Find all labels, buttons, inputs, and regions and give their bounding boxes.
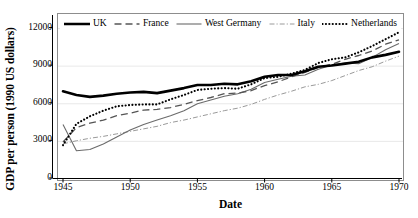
legend-item-uk[interactable]: UK [64, 19, 107, 29]
series-line-italy [63, 56, 399, 144]
x-tick-label: 1950 [110, 183, 150, 193]
series-lines [58, 14, 403, 180]
legend-swatch-netherlands-icon [322, 19, 348, 29]
y-tick-label: 6000 [18, 98, 52, 108]
legend-item-italy[interactable]: Italy [269, 19, 315, 29]
legend-item-france[interactable]: France [114, 19, 169, 29]
gdp-per-person-line-chart: GDP per person (1990 US dollars) 0300060… [0, 0, 418, 218]
legend-label: Italy [298, 19, 315, 29]
x-tick-label: 1960 [245, 183, 285, 193]
legend-label: France [143, 19, 169, 29]
x-tick-label: 1955 [177, 183, 217, 193]
legend-label: UK [93, 19, 107, 29]
legend-swatch-west-germany-icon [176, 19, 202, 29]
x-tick-label: 1945 [43, 183, 83, 193]
x-tick-label: 1965 [312, 183, 352, 193]
y-tick-label: 0 [18, 173, 52, 183]
series-line-netherlands [63, 32, 399, 145]
legend-item-netherlands[interactable]: Netherlands [322, 19, 397, 29]
legend-item-west-germany[interactable]: West Germany [176, 19, 261, 29]
legend-swatch-france-icon [114, 19, 140, 29]
x-axis-title: Date [57, 198, 404, 210]
chart-legend: UKFranceWest GermanyItalyNetherlands [60, 16, 401, 31]
legend-swatch-uk-icon [64, 19, 90, 29]
y-tick-label: 12000 [18, 23, 52, 33]
plot-area [57, 13, 404, 181]
legend-swatch-italy-icon [269, 19, 295, 29]
y-tick-label: 9000 [18, 60, 52, 70]
legend-label: Netherlands [351, 19, 397, 29]
y-tick-label: 3000 [18, 135, 52, 145]
legend-label: West Germany [205, 19, 261, 29]
x-tick-label: 1970 [379, 183, 418, 193]
